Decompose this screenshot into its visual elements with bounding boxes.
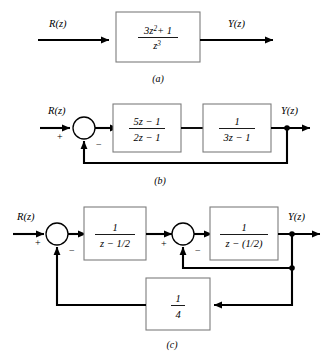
block-b-1-numerator: 5z − 1 bbox=[134, 116, 161, 127]
sum-b-input-sign: + bbox=[57, 131, 63, 142]
sum-b-feedback-sign: − bbox=[96, 139, 102, 150]
summing-junction-b bbox=[73, 117, 95, 139]
sum-c-1-feedback-sign: − bbox=[69, 245, 75, 256]
output-label-b: Y(z) bbox=[281, 105, 298, 117]
block-c-2 bbox=[210, 207, 278, 260]
block-a-numerator: 3z bbox=[143, 25, 153, 36]
block-b-2-numerator: 1 bbox=[234, 116, 239, 127]
block-b-1-denominator: 2z − 1 bbox=[134, 132, 161, 143]
block-b-2-denominator: 3z − 1 bbox=[223, 132, 251, 143]
block-c-feedback-gain bbox=[146, 278, 210, 330]
figure-canvas: R(z) 3z2+ 1 z3 Y(z) (a) R(z) + − bbox=[0, 0, 331, 354]
block-c-1 bbox=[84, 207, 146, 260]
svg-text:3z2+ 1: 3z2+ 1 bbox=[143, 25, 172, 37]
block-c-feedback-denominator: 4 bbox=[175, 309, 181, 320]
output-label-c: Y(z) bbox=[288, 211, 305, 223]
block-a-denominator-exponent: 3 bbox=[156, 40, 161, 48]
sum-c-2-feedback-sign: − bbox=[195, 245, 201, 256]
block-c-2-denominator: z − (1/2) bbox=[225, 238, 263, 250]
block-a-numerator-tail: + 1 bbox=[157, 25, 172, 36]
caption-c: (c) bbox=[166, 339, 178, 351]
sum-c-1-input-sign: + bbox=[35, 237, 41, 248]
block-c-2-numerator: 1 bbox=[241, 222, 246, 233]
input-label-c: R(z) bbox=[16, 211, 35, 223]
outer-feedback-wire-right-c bbox=[214, 268, 292, 305]
caption-b: (b) bbox=[154, 175, 166, 187]
summing-junction-c-1 bbox=[46, 223, 68, 245]
block-a-forward bbox=[116, 12, 200, 62]
block-c-1-numerator: 1 bbox=[112, 222, 117, 233]
block-b-2 bbox=[203, 104, 271, 152]
input-label-a: R(z) bbox=[48, 18, 67, 30]
input-label-b: R(z) bbox=[47, 105, 66, 117]
diagram-c: R(z) + − 1 z − 1/2 + − 1 z − (1/2) bbox=[13, 207, 320, 351]
block-b-1 bbox=[113, 104, 181, 152]
summing-junction-c-2 bbox=[172, 223, 194, 245]
sum-c-2-input-sign: + bbox=[161, 238, 167, 249]
block-c-1-denominator: z − 1/2 bbox=[99, 238, 131, 249]
diagram-b: R(z) + − 5z − 1 2z − 1 1 3z − 1 Y(z) (b) bbox=[40, 104, 310, 187]
caption-a: (a) bbox=[152, 73, 164, 85]
diagram-a: R(z) 3z2+ 1 z3 Y(z) (a) bbox=[38, 12, 273, 85]
block-c-feedback-numerator: 1 bbox=[175, 293, 180, 304]
block-diagram-figure: R(z) 3z2+ 1 z3 Y(z) (a) R(z) + − bbox=[0, 0, 331, 354]
output-label-a: Y(z) bbox=[228, 18, 245, 30]
